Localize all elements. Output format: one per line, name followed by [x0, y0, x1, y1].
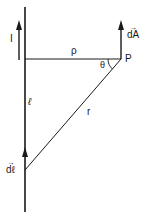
dl-label: → dℓ	[6, 165, 15, 175]
dA-arrow-head	[118, 20, 124, 30]
r-line	[25, 59, 121, 170]
dA-label: → dA	[127, 30, 139, 40]
r-label: r	[87, 107, 90, 117]
vector-arrow-icon: →	[127, 24, 139, 32]
current-label: I	[10, 34, 13, 44]
vector-arrow-icon: →	[6, 159, 15, 167]
rho-label: ρ	[71, 46, 77, 56]
current-arrow-head	[16, 20, 22, 30]
point-p-label: P	[125, 54, 132, 64]
dl-arrow-head	[22, 147, 28, 157]
length-label: ℓ	[28, 97, 31, 107]
theta-arc	[108, 59, 113, 69]
diagram-canvas	[0, 0, 148, 218]
theta-label: θ	[100, 61, 105, 70]
